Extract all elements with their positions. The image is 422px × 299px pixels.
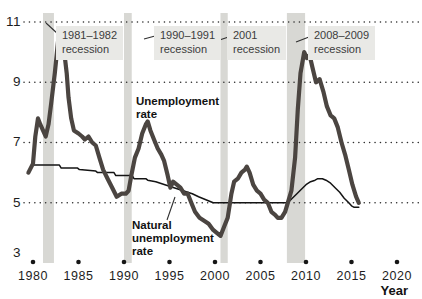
recession-label: 1990–1991recession: [154, 26, 221, 60]
x-axis-tick-dot: [304, 260, 309, 265]
recession-label-word: recession: [160, 43, 215, 57]
x-axis-tick-dot: [213, 260, 218, 265]
x-axis-tick-label: 1980: [11, 269, 55, 283]
y-axis-tick-label: 3: [0, 246, 21, 260]
x-axis-title: Year: [376, 283, 408, 298]
x-axis-tick-label: 1995: [148, 269, 192, 283]
recession-label: 2001recession: [227, 26, 286, 60]
recession-label-years: 2001: [233, 29, 280, 43]
x-axis-tick-dot: [122, 260, 127, 265]
recession-label-word: recession: [62, 43, 117, 57]
x-axis-tick-label: 2010: [284, 269, 328, 283]
y-axis-tick-label: 11: [0, 15, 21, 29]
recession-label-word: recession: [314, 43, 369, 57]
x-axis-tick-label: 2015: [330, 269, 374, 283]
natural-unemployment-rate-label: Natural unemployment rate: [132, 219, 220, 258]
x-axis-tick-label: 1990: [102, 269, 146, 283]
recession-band: [124, 13, 132, 263]
y-axis-tick-label: 9: [0, 75, 21, 89]
x-axis-tick-label: 1985: [57, 269, 101, 283]
x-axis-tick-label: 2000: [193, 269, 237, 283]
x-axis-tick-label: 2005: [239, 269, 283, 283]
x-axis-tick-dot: [258, 260, 263, 265]
recession-label-years: 1981–1982: [62, 29, 117, 43]
x-axis-tick-dot: [76, 260, 81, 265]
figure-unemployment-chart: { "figure": { "y_axis_labels": ["11", "9…: [0, 0, 422, 299]
x-axis-tick-label: 2020: [375, 269, 419, 283]
natural-unemployment-rate-line: [33, 165, 359, 207]
y-axis-tick-label: 5: [0, 196, 21, 210]
x-axis-tick-dot: [31, 260, 36, 265]
recession-label: 1981–1982recession: [56, 26, 123, 60]
x-axis-tick-dot: [349, 260, 354, 265]
x-axis-tick-dot: [167, 260, 172, 265]
x-axis-tick-dot: [395, 260, 400, 265]
callout-line: [167, 197, 175, 220]
recession-label-word: recession: [233, 43, 280, 57]
recession-label-years: 1990–1991: [160, 29, 215, 43]
recession-label: 2008–2009recession: [308, 26, 375, 60]
y-axis-tick-label: 7: [0, 135, 21, 149]
recession-label-years: 2008–2009: [314, 29, 369, 43]
unemployment-rate-label: Unemployment rate: [136, 95, 220, 121]
